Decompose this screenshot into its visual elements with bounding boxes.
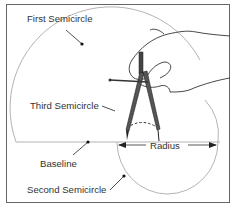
baseline-dot [86, 140, 89, 143]
baseline-label: Baseline [40, 158, 77, 169]
crossbar-knob [109, 79, 112, 82]
first-semicircle-label: First Semicircle [27, 13, 93, 24]
third-semicircle-label: Third Semicircle [30, 100, 99, 111]
second-semicircle-label: Second Semicircle [27, 184, 106, 195]
construction-diagram: Radius First Semicircle Third Semicircle… [0, 0, 236, 208]
second-semicircle-dot [122, 174, 125, 177]
radius-label: Radius [150, 140, 180, 151]
first-semicircle-dot [80, 42, 83, 45]
compass-handle [139, 52, 143, 74]
